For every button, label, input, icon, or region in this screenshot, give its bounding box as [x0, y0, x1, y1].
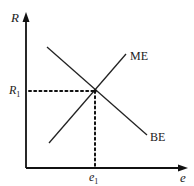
me-curve: [49, 54, 126, 143]
r1-label: R1: [9, 84, 20, 99]
y-axis-label: R: [11, 11, 19, 24]
be-label: BE: [150, 131, 165, 143]
e1-label-sub: 1: [94, 177, 98, 186]
y-axis-arrow-icon: [23, 12, 30, 22]
x-axis-label: e: [180, 171, 186, 184]
r1-label-sub: 1: [16, 90, 20, 99]
me-label: ME: [130, 50, 148, 62]
diagram-canvas: [0, 0, 194, 186]
equilibrium-point: [93, 89, 97, 93]
e1-label: e1: [89, 171, 98, 186]
